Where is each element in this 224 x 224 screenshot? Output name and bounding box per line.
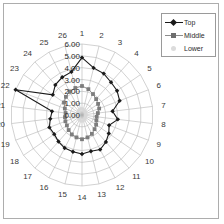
data-point — [107, 131, 111, 135]
category-label: 18 — [10, 157, 19, 166]
data-point — [90, 132, 94, 136]
category-label: 21 — [0, 101, 6, 110]
diamond-marker-icon — [164, 17, 184, 28]
category-label: 24 — [23, 49, 32, 58]
data-point — [86, 87, 90, 91]
category-label: 22 — [1, 81, 10, 90]
category-label: 3 — [118, 38, 123, 47]
category-label: 15 — [58, 190, 67, 199]
radial-tick-labels: 0.001.002.003.004.005.006.00 — [64, 40, 80, 120]
radial-tick-label: 5.00 — [64, 52, 80, 61]
radial-tick-label: 2.00 — [64, 87, 80, 96]
category-label: 8 — [161, 120, 166, 129]
category-label: 17 — [23, 172, 32, 181]
data-point — [67, 128, 71, 132]
category-label: 5 — [147, 64, 152, 73]
category-label: 16 — [39, 183, 48, 192]
dot-marker-icon — [164, 43, 184, 54]
category-label: 12 — [116, 183, 125, 192]
data-point — [93, 127, 97, 131]
radial-tick-label: 4.00 — [64, 64, 80, 73]
category-label: 11 — [132, 172, 141, 181]
legend-item-lower[interactable]: Lower — [162, 42, 215, 55]
legend-label-middle: Middle — [184, 31, 205, 40]
data-point — [94, 123, 98, 127]
data-point — [71, 150, 75, 154]
category-label: 13 — [97, 190, 106, 199]
category-label: 20 — [0, 120, 6, 129]
data-point — [48, 117, 52, 121]
legend-item-middle[interactable]: Middle — [162, 29, 215, 42]
category-label: 23 — [10, 64, 19, 73]
legend-label-top: Top — [184, 18, 195, 27]
radial-tick-label: 0.00 — [64, 111, 80, 120]
chart-legend: Top Middle Lower — [161, 13, 216, 57]
legend-item-top[interactable]: Top — [162, 16, 215, 29]
data-point — [70, 132, 74, 136]
category-label: 19 — [1, 140, 10, 149]
category-label: 2 — [99, 31, 104, 40]
category-label: 25 — [39, 38, 48, 47]
data-point — [97, 107, 101, 111]
category-label: 26 — [58, 31, 67, 40]
data-point — [80, 84, 84, 88]
data-point — [94, 119, 98, 123]
category-label: 7 — [161, 101, 166, 110]
category-label: 1 — [80, 29, 85, 38]
radial-tick-label: 1.00 — [64, 99, 80, 108]
category-label: 4 — [134, 49, 139, 58]
legend-label-lower: Lower — [184, 44, 203, 53]
radial-tick-label: 6.00 — [64, 40, 80, 49]
data-point — [65, 124, 69, 128]
radial-tick-label: 3.00 — [64, 76, 80, 85]
polar-grid — [12, 44, 153, 186]
category-label: 9 — [156, 140, 161, 149]
data-point — [80, 137, 84, 141]
data-point — [96, 111, 100, 115]
category-label: 14 — [78, 193, 87, 202]
square-marker-icon — [164, 30, 184, 41]
data-point — [75, 136, 79, 140]
data-point — [95, 115, 99, 119]
data-point — [80, 152, 84, 156]
category-label: 6 — [156, 81, 161, 90]
data-point — [96, 102, 100, 106]
data-point — [91, 92, 95, 96]
data-point — [94, 97, 98, 101]
category-label: 10 — [145, 157, 154, 166]
data-point — [86, 136, 90, 140]
